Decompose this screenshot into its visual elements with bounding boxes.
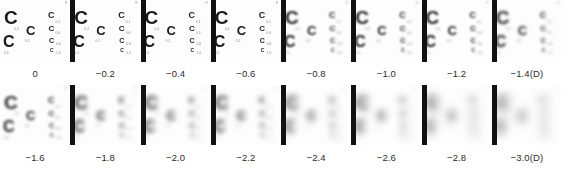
acuity-chart-image: RCCCCCCC0.40.20.10.60.81.00.5 xyxy=(351,0,421,62)
acuity-chart-window: RCCCCCCC0.40.20.10.60.81.00.5 xyxy=(422,85,492,145)
acuity-value-label: 0.1 xyxy=(266,106,271,109)
landolt-c-optotype: C xyxy=(448,109,457,122)
panel-separator-bar xyxy=(351,0,356,62)
acuity-value-label: 0.8 xyxy=(267,128,272,131)
defocus-panel: RCCCCCCC0.40.20.10.60.81.00.5−1.2 xyxy=(422,0,492,79)
landolt-c-optotype: C xyxy=(541,37,546,44)
acuity-value-label: 0.4 xyxy=(506,113,511,116)
landolt-c-optotype: C xyxy=(145,8,158,27)
acuity-value-label: 0.8 xyxy=(267,43,272,46)
landolt-c-optotype: C xyxy=(189,110,195,118)
landolt-c-optotype: C xyxy=(48,11,54,20)
landolt-c-optotype: C xyxy=(307,109,316,122)
acuity-value-label: 0.2 xyxy=(376,125,381,128)
landolt-c-optotype: C xyxy=(377,109,386,122)
acuity-chart-window: RCCCCCCC0.40.20.10.60.81.00.5 xyxy=(351,85,421,145)
acuity-value-label: 0.4 xyxy=(84,113,89,116)
acuity-value-label: 0.8 xyxy=(337,128,342,131)
acuity-chart-window: RCCCCCCC0.40.20.10.60.81.00.5 xyxy=(70,0,140,62)
landolt-c-optotype: C xyxy=(400,122,405,129)
acuity-value-label: 1.0 xyxy=(337,137,342,140)
landolt-c-optotype: C xyxy=(237,109,246,122)
panel-separator-bar xyxy=(141,0,146,62)
acuity-chart-image: RCCCCCCC0.40.20.10.60.81.00.5 xyxy=(141,85,211,145)
chart-corner-mark: R xyxy=(557,2,559,5)
defocus-value-caption: −1.4(D) xyxy=(492,68,562,79)
landolt-c-optotype: C xyxy=(49,37,54,44)
acuity-chart-window: RCCCCCCC0.40.20.10.60.81.00.5 xyxy=(0,85,70,145)
defocus-value-caption: −2.6 xyxy=(351,152,421,163)
acuity-value-label: 0.8 xyxy=(56,43,61,46)
landolt-c-optotype: C xyxy=(542,48,546,53)
panel-separator-bar xyxy=(351,85,356,145)
acuity-value-label: 0.2 xyxy=(166,125,171,128)
landolt-c-optotype: C xyxy=(471,37,476,44)
acuity-value-label: 0.2 xyxy=(236,40,241,43)
chart-corner-mark: R xyxy=(65,87,67,90)
acuity-value-label: 0.2 xyxy=(95,125,100,128)
acuity-value-label: 1.0 xyxy=(267,137,272,140)
defocus-value-caption: −2.8 xyxy=(422,152,492,163)
landolt-c-optotype: C xyxy=(260,122,265,129)
landolt-c-optotype: C xyxy=(167,24,176,37)
panel-separator-bar xyxy=(422,85,427,145)
panel-separator-bar xyxy=(211,85,216,145)
landolt-c-optotype: C xyxy=(285,93,298,112)
acuity-value-label: 0.8 xyxy=(548,43,553,46)
acuity-value-label: 0.4 xyxy=(225,113,230,116)
landolt-c-optotype: C xyxy=(426,8,439,27)
acuity-value-label: 0.8 xyxy=(548,128,553,131)
landolt-c-optotype: C xyxy=(540,25,546,33)
landolt-c-optotype: C xyxy=(330,122,335,129)
landolt-c-optotype: C xyxy=(49,122,54,129)
acuity-value-label: 0.6 xyxy=(477,117,482,120)
acuity-chart-window: RCCCCCCC0.40.20.10.60.81.00.5 xyxy=(351,0,421,62)
acuity-value-label: 0.6 xyxy=(477,32,482,35)
acuity-chart-image: RCCCCCCC0.40.20.10.60.81.00.5 xyxy=(211,0,281,62)
landolt-c-optotype: C xyxy=(191,48,195,53)
acuity-value-label: 0.1 xyxy=(477,106,482,109)
acuity-chart-window: RCCCCCCC0.40.20.10.60.81.00.5 xyxy=(211,85,281,145)
landolt-c-optotype: C xyxy=(471,122,476,129)
acuity-value-label: 0.8 xyxy=(478,128,483,131)
landolt-c-optotype: C xyxy=(355,8,368,27)
acuity-chart-window: RCCCCCCC0.40.20.10.60.81.00.5 xyxy=(492,85,562,145)
defocus-value-caption: −2.2 xyxy=(211,152,281,163)
chart-corner-mark: R xyxy=(135,2,137,5)
landolt-c-optotype: C xyxy=(190,37,195,44)
landolt-c-optotype: C xyxy=(496,93,509,112)
defocus-panel: RCCCCCCC0.40.20.10.60.81.00.5−3.0(D) xyxy=(492,85,562,163)
landolt-c-optotype: C xyxy=(518,24,527,37)
defocus-value-caption: −3.0(D) xyxy=(492,152,562,163)
acuity-value-label: 0.1 xyxy=(126,21,131,24)
panel-separator-bar xyxy=(422,0,427,62)
acuity-value-label: 1.0 xyxy=(548,52,553,55)
defocus-panel: RCCCCCCC0.40.20.10.60.81.00.5−2.8 xyxy=(422,85,492,163)
acuity-value-label: 1.0 xyxy=(478,137,483,140)
panel-separator-bar xyxy=(281,0,286,62)
acuity-value-label: 0.1 xyxy=(196,21,201,24)
acuity-value-label: 0.1 xyxy=(407,106,412,109)
landolt-c-optotype: C xyxy=(48,96,54,105)
landolt-c-optotype: C xyxy=(4,8,17,27)
landolt-c-optotype: C xyxy=(540,96,546,105)
landolt-c-optotype: C xyxy=(74,8,87,27)
acuity-value-label: 1.0 xyxy=(126,137,131,140)
acuity-chart-image: RCCCCCCC0.40.20.10.60.81.00.5 xyxy=(0,85,70,145)
acuity-value-label: 0.4 xyxy=(506,28,511,31)
chart-corner-mark: R xyxy=(487,2,489,5)
acuity-value-label: 0.6 xyxy=(266,32,271,35)
chart-corner-mark: R xyxy=(346,2,348,5)
landolt-c-optotype: C xyxy=(400,110,406,118)
acuity-value-label: 0.8 xyxy=(197,43,202,46)
chart-corner-mark: R xyxy=(487,87,489,90)
landolt-c-optotype: C xyxy=(120,48,124,53)
landolt-c-optotype: C xyxy=(259,96,265,105)
defocus-panel: RCCCCCCC0.40.20.10.60.81.00.50 xyxy=(0,0,70,79)
acuity-value-label: 0.6 xyxy=(407,32,412,35)
panel-separator-bar xyxy=(492,0,497,62)
landolt-c-optotype: C xyxy=(26,24,35,37)
acuity-value-label: 0.1 xyxy=(547,106,552,109)
landolt-c-optotype: C xyxy=(400,37,405,44)
landolt-c-optotype: C xyxy=(426,93,439,112)
